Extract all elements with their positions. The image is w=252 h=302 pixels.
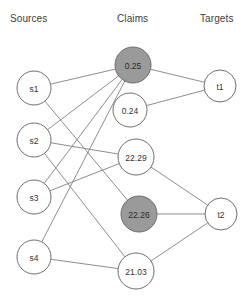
node-label-s1: s1: [30, 84, 39, 94]
graph-node-c1[interactable]: 0.25: [115, 47, 151, 83]
node-label-c1: 0.25: [125, 61, 142, 71]
graph-node-t1[interactable]: t1: [204, 70, 236, 102]
graph-node-s4[interactable]: s4: [17, 240, 51, 274]
graph-node-c2[interactable]: 0.24: [113, 93, 147, 127]
node-label-c5: 21.03: [125, 267, 147, 277]
graph-node-c5[interactable]: 21.03: [118, 253, 154, 289]
graph-edge: [44, 79, 122, 183]
node-label-c4: 22.26: [128, 210, 150, 220]
graph-node-s3[interactable]: s3: [17, 180, 51, 214]
graph-edge: [151, 167, 208, 205]
node-label-s3: s3: [30, 193, 39, 203]
node-label-t2: t2: [217, 210, 224, 220]
column-header-layer: SourcesClaimsTargets: [10, 13, 234, 24]
graph-edge: [42, 81, 125, 242]
tripartite-graph-figure: s1s2s3s40.250.2422.2922.2621.03t1t2 Sour…: [0, 0, 252, 302]
column-header-claims: Claims: [117, 13, 148, 24]
graph-edge: [151, 223, 208, 261]
graph-edge: [51, 143, 118, 154]
graph-edge: [48, 76, 119, 130]
column-header-sources: Sources: [10, 13, 47, 24]
node-label-c2: 0.24: [122, 106, 139, 116]
node-label-t1: t1: [216, 82, 223, 92]
graph-node-t2[interactable]: t2: [205, 198, 237, 230]
graph-canvas: s1s2s3s40.250.2422.2922.2621.03t1t2 Sour…: [0, 0, 252, 302]
graph-edge: [151, 69, 205, 82]
graph-edge: [146, 90, 204, 106]
graph-edge: [51, 69, 116, 84]
node-label-s2: s2: [30, 136, 39, 146]
graph-node-c4[interactable]: 22.26: [121, 196, 157, 232]
graph-node-c3[interactable]: 22.29: [118, 139, 154, 175]
node-label-c3: 22.29: [125, 153, 147, 163]
node-label-s4: s4: [30, 253, 39, 263]
node-layer: s1s2s3s40.250.2422.2922.2621.03t1t2: [17, 47, 237, 289]
graph-node-s2[interactable]: s2: [17, 123, 51, 157]
graph-node-s1[interactable]: s1: [17, 71, 51, 105]
graph-edge: [51, 259, 118, 268]
column-header-targets: Targets: [200, 13, 234, 24]
graph-edge: [44, 153, 125, 256]
